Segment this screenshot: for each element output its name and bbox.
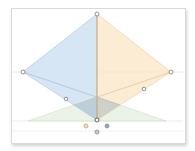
top-vertex-handle[interactable] — [95, 12, 99, 16]
mid-left-handle[interactable] — [64, 97, 68, 101]
right-vertex-handle[interactable] — [169, 70, 173, 74]
diagram-canvas — [0, 0, 195, 151]
mid-right-handle[interactable] — [142, 87, 146, 91]
left-vertex-handle[interactable] — [21, 70, 25, 74]
orange-dot-icon[interactable] — [84, 124, 88, 128]
bottom-vertex-handle[interactable] — [95, 118, 99, 122]
blue-dot-icon[interactable] — [105, 124, 109, 128]
gray-dot-icon[interactable] — [95, 130, 99, 134]
